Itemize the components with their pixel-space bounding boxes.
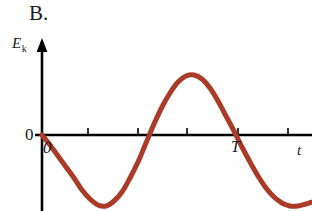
period-tick-label: T: [231, 139, 240, 155]
y-axis-arrowhead-icon: [37, 38, 48, 52]
energy-curve: [42, 75, 312, 207]
origin-label-below: 0: [43, 139, 52, 156]
y-axis-label-subscript: k: [22, 43, 27, 54]
y-axis-label-symbol: E: [12, 35, 21, 51]
kinetic-energy-time-plot: [0, 0, 312, 211]
y-axis-label: Ek: [12, 36, 27, 54]
panel-label: B.: [29, 3, 48, 24]
figure-panel-b: B. Ek t 0 0 T: [0, 0, 312, 211]
x-axis-label: t: [297, 143, 301, 158]
x-axis: [35, 128, 312, 135]
y-axis: [37, 38, 48, 211]
origin-label-left: 0: [25, 126, 34, 143]
